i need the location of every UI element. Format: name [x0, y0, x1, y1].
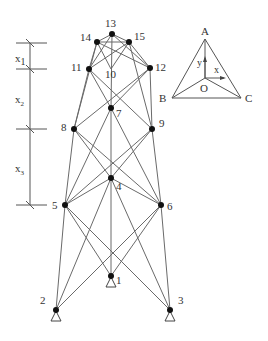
x-axis-arrow-icon	[220, 76, 226, 80]
node-11	[86, 66, 92, 72]
node-label-15: 15	[134, 30, 146, 42]
node-label-3: 3	[178, 294, 184, 306]
node-label-4: 4	[116, 180, 122, 192]
origin-O-label: O	[200, 82, 208, 94]
node-9	[149, 126, 155, 132]
vertex-B-label: B	[159, 92, 166, 104]
node-label-14: 14	[80, 31, 92, 43]
vertex-A-label: A	[201, 25, 209, 37]
dim-x3-label: x3	[15, 162, 25, 177]
node-1	[108, 273, 114, 279]
dimension-line: x1 x2 x3	[15, 39, 47, 209]
node-label-13: 13	[105, 17, 117, 29]
node-label-6: 6	[167, 200, 173, 212]
node-6	[158, 202, 164, 208]
node-3	[167, 307, 173, 313]
node-label-9: 9	[159, 117, 165, 129]
node-13	[109, 31, 115, 37]
inset-triangle: A B C O y x	[159, 25, 252, 104]
vertex-C-label: C	[245, 92, 252, 104]
node-label-5: 5	[52, 199, 58, 211]
dim-x1-label: x1	[15, 52, 26, 67]
x-axis-label: x	[214, 64, 219, 75]
node-15	[126, 39, 132, 45]
node-label-8: 8	[61, 121, 67, 133]
node-14	[94, 39, 100, 45]
node-12	[147, 65, 153, 71]
node-label-7: 7	[116, 107, 122, 119]
node-8	[71, 126, 77, 132]
node-5	[62, 202, 68, 208]
y-axis-label: y	[197, 57, 202, 68]
node-label-10: 10	[105, 68, 117, 80]
supports	[51, 277, 175, 321]
y-axis-arrow-icon	[203, 56, 207, 62]
node-4	[108, 175, 114, 181]
truss-diagram: x1 x2 x3	[0, 0, 268, 341]
node-label-12: 12	[155, 61, 166, 73]
node-7	[108, 105, 114, 111]
dim-x2-label: x2	[15, 93, 25, 108]
node-2	[53, 307, 59, 313]
node-label-1: 1	[116, 274, 122, 286]
node-label-2: 2	[40, 294, 46, 306]
node-label-11: 11	[71, 61, 82, 73]
